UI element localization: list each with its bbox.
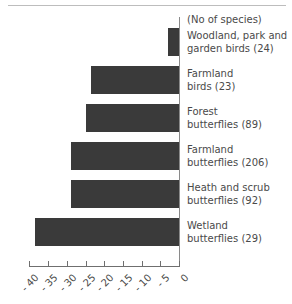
bar [168,28,179,56]
category-label-line2: butterflies (29) [187,232,292,245]
category-label: Wetlandbutterflies (29) [187,219,292,245]
bar [35,218,179,246]
x-axis-tick [104,261,105,267]
x-axis-tick [67,261,68,267]
category-label: Forestbutterflies (89) [187,105,292,131]
category-label-line1: Wetland [187,219,292,232]
category-label: Woodland, park andgarden birds (24) [187,29,292,55]
category-label-line2: butterflies (206) [187,156,292,169]
units-note: (No of species) [187,13,262,26]
category-labels: (No of species) Woodland, park andgarden… [187,0,292,304]
x-axis-tick [86,261,87,267]
bar [71,142,179,170]
bar [91,66,179,94]
category-label-line1: Farmland [187,67,292,80]
x-axis-tick [29,261,30,267]
category-label-line1: Woodland, park and [187,29,292,42]
x-axis-tick [179,261,180,267]
bar [86,104,180,132]
category-label: Heath and scrubbutterflies (92) [187,181,292,207]
bar [71,180,179,208]
category-label-line2: birds (23) [187,80,292,93]
x-axis-tick [123,261,124,267]
category-label-line2: garden birds (24) [187,42,292,55]
x-axis-tick [142,261,143,267]
category-label-line2: butterflies (92) [187,194,292,207]
category-label-line1: Farmland [187,143,292,156]
category-label-line1: Forest [187,105,292,118]
category-label-line1: Heath and scrub [187,181,292,194]
x-axis-tick [160,261,161,267]
category-label: Farmlandbutterflies (206) [187,143,292,169]
category-label-line2: butterflies (89) [187,118,292,131]
category-label: Farmlandbirds (23) [187,67,292,93]
x-axis-tick [48,261,49,267]
bar-chart: - 40- 35- 30- 25- 20- 15- 10- 50 (No of … [0,0,292,304]
